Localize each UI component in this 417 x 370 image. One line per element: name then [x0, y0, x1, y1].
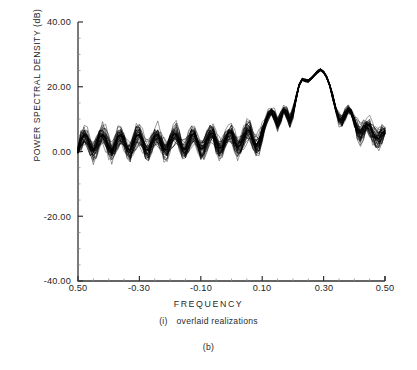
- plot-canvas: [0, 0, 417, 370]
- figure-panel: POWER SPECTRAL DENSITY (dB) 40.00 20.00 …: [0, 0, 417, 370]
